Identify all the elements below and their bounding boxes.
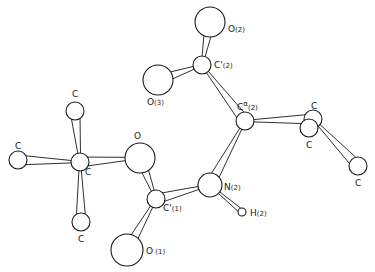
atom-Cp2 [193,56,211,74]
atom-Cb [72,213,90,231]
atom-label-N2: N(2) [224,182,241,192]
atom-Ca2 [236,112,254,130]
atom-label-O3: O(3) [147,97,164,107]
atom-label-Cr1: C [311,101,317,111]
atom-Ct [66,102,84,120]
labels-layer: O(2)C'(2)O(3)Cα(2)CCCN(2)H(2)C'(1)O (1)O… [15,24,361,256]
atom-H2 [238,208,246,216]
atom-label-Cr3: C [355,178,361,188]
atom-label-Cc: C [85,167,91,177]
atoms-layer [9,7,367,266]
atom-O2 [195,7,225,37]
atom-Cr3 [349,157,367,175]
atom-O1 [111,234,143,266]
atom-label-Ct: C [72,89,78,99]
atom-Cl [9,151,27,169]
atom-O3 [143,65,173,95]
atom-label-Ca2: Cα(2) [237,100,258,112]
molecular-structure-diagram: O(2)C'(2)O(3)Cα(2)CCCN(2)H(2)C'(1)O (1)O… [0,0,375,272]
atom-label-Cb: C [78,234,84,244]
atom-Om [125,143,155,173]
atom-N2 [198,173,222,197]
atom-label-Om: O [134,131,141,141]
atom-label-Cr2: C [306,140,312,150]
atom-label-O2: O(2) [228,24,245,34]
atom-Cr2 [300,119,318,137]
atom-label-Cp1: C'(1) [163,203,182,213]
atom-label-O1: O (1) [146,246,166,256]
atom-label-Cl: C [15,141,21,151]
atom-label-H2: H(2) [250,208,267,218]
atom-label-Cp2: C'(2) [214,60,233,70]
